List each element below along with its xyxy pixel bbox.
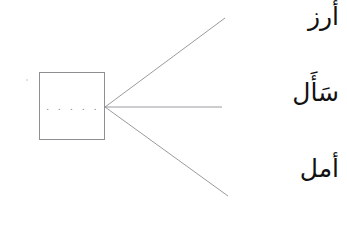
worksheet-canvas: . . . . . أرز سَأَل أمل	[0, 0, 347, 225]
connector-lines	[0, 0, 347, 225]
option-word-asked[interactable]: سَأَل	[292, 80, 339, 105]
option-word-rice[interactable]: أرز	[308, 4, 339, 29]
line-to-hope	[105, 107, 228, 196]
option-word-hope[interactable]: أمل	[300, 156, 339, 181]
line-to-rice	[105, 18, 225, 107]
